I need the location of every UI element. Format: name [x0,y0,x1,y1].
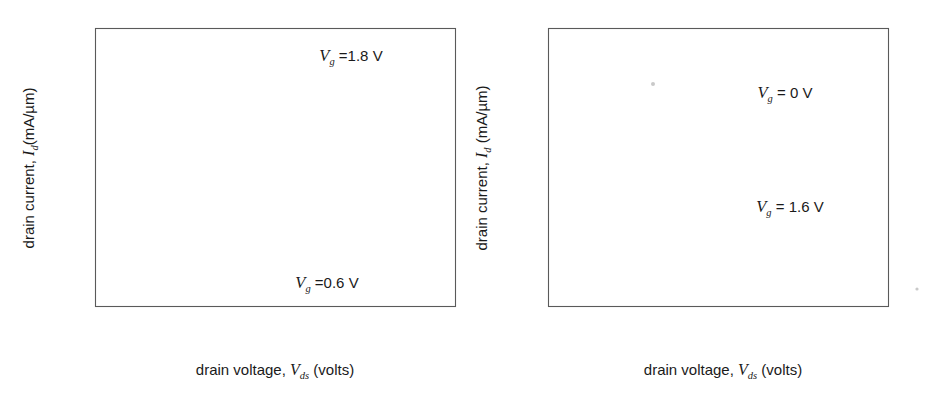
panel-a-y-axis-title: drain current, Id(mA/µm) [20,88,40,249]
x-title-subscript: ds [748,370,757,381]
x-title-post: (volts) [757,361,802,378]
panel-b-annotation-vg-bottom: Vg = 1.6 V [756,197,823,218]
chart-panel-b: drain voltage, Vds (volts) drain current… [465,0,930,398]
panel-a-annotation-vg-bottom: Vg =0.6 V [295,273,358,294]
scan-speck [651,82,655,86]
x-title-pre: drain voltage, [196,361,290,378]
y-title-post: (mA/µm) [473,85,490,147]
y-title-post: (mA/µm) [20,88,37,146]
scan-speck-2 [915,287,918,290]
panel-b-x-axis-title: drain voltage, Vds (volts) [644,361,802,381]
chart-panel-a: drain voltage, Vds (volts) drain current… [0,0,465,398]
y-title-pre: drain current, [473,158,490,251]
figure-container: drain voltage, Vds (volts) drain current… [0,0,930,398]
panel-b-y-axis-title: drain current, Id (mA/µm) [473,85,493,250]
annot-post: = 1.6 V [772,198,824,215]
annot-post: =1.8 V [335,47,383,64]
annot-post: =0.6 V [311,274,359,291]
panel-b-annotation-vg-top: Vg = 0 V [758,83,813,104]
panel-a-annotation-vg-top: Vg =1.8 V [319,46,382,67]
panel-a-plot-frame [96,29,456,307]
annot-post: = 0 V [773,84,813,101]
y-title-pre: drain current, [20,156,37,249]
x-title-pre: drain voltage, [644,361,738,378]
x-title-subscript: ds [300,370,309,381]
panel-b-plot-frame [549,29,889,307]
panel-a-x-axis-title: drain voltage, Vds (volts) [196,361,354,381]
x-title-post: (volts) [309,361,354,378]
